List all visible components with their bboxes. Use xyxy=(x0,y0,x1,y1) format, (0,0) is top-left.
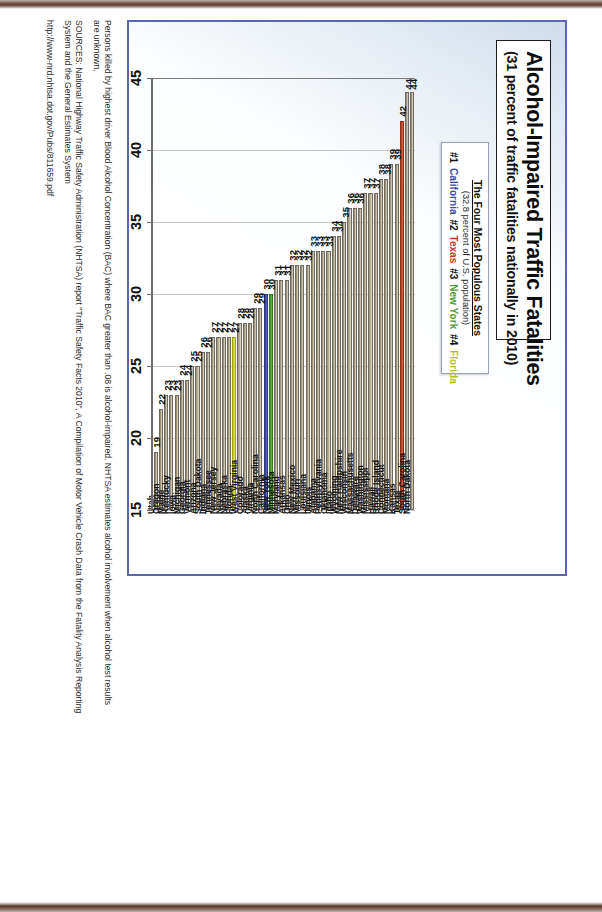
bar-value-label: 34 xyxy=(331,221,341,232)
legend-rank-4: #4 xyxy=(448,334,459,345)
tick-label-25: 25 xyxy=(129,354,144,378)
bar-value-label: 25 xyxy=(189,351,199,362)
bar-row: 39 xyxy=(389,78,393,510)
note-1-line-1: Persons killed by highest driver Blood A… xyxy=(102,20,113,576)
tick-mark-25 xyxy=(147,366,153,367)
legend-state-texas: Texas xyxy=(448,235,459,263)
bar-value-label: 33 xyxy=(310,236,320,247)
bar-row: 34 xyxy=(337,78,341,510)
bar-row: 37 xyxy=(374,78,378,510)
bar-row: 28 xyxy=(248,78,252,510)
bar-row: 38 xyxy=(379,78,383,510)
chart-title-box: Alcohol-Impaired Traffic Fatalities (31 … xyxy=(496,40,551,340)
bar-row: 28 xyxy=(243,78,247,510)
legend-state-florida: Florida xyxy=(448,350,459,384)
bar-row: 36 xyxy=(358,78,362,510)
bar-value-label: 24 xyxy=(179,365,189,376)
bar-row: 37 xyxy=(363,78,367,510)
bar-row: 31 xyxy=(285,78,289,510)
tick-mark-40 xyxy=(147,150,153,151)
bar-value-label: 32 xyxy=(289,250,299,261)
tick-label-15: 15 xyxy=(129,498,144,522)
bar-value-label: 19 xyxy=(152,437,162,448)
bar-row: 23 xyxy=(164,78,168,510)
bar-value-label: 37 xyxy=(362,178,372,189)
bar-value-label: 42 xyxy=(399,106,409,117)
bar-row: 28 xyxy=(237,78,241,510)
bar-value-label: 39 xyxy=(388,149,398,160)
bar-row: 33 xyxy=(327,78,331,510)
bar-row: 31 xyxy=(279,78,283,510)
bar-row: 36 xyxy=(347,78,351,510)
category-axis-labels: North DakotaSouth CarolinaTexasKansasMon… xyxy=(153,514,415,576)
bar-row: 39 xyxy=(395,78,399,510)
bar-connecticut xyxy=(384,179,388,510)
legend-rank-1: #1 xyxy=(448,152,459,163)
legend-rank-3: #3 xyxy=(448,268,459,279)
bar-value-label: 23 xyxy=(163,380,173,391)
bar-row: 33 xyxy=(321,78,325,510)
bar-chart-plot-area: 4444423939383837373736363635343433333333… xyxy=(153,78,415,510)
scan-artifact-bottom-edge xyxy=(0,902,602,912)
bar-row: 27 xyxy=(227,78,231,510)
bar-row: 24 xyxy=(180,78,184,510)
bar-row: 23 xyxy=(175,78,179,510)
bar-row: 37 xyxy=(368,78,372,510)
bar-row: 34 xyxy=(332,78,336,510)
bar-value-label: 26 xyxy=(200,337,210,348)
bar-texas xyxy=(400,121,404,510)
note-1-line-2: are unknown. xyxy=(91,20,102,576)
bar-row: 31 xyxy=(274,78,278,510)
bar-value-label: 22 xyxy=(158,394,168,405)
legend-state-list: #1 California #2 Texas #3 New York #4 Fl… xyxy=(448,151,459,365)
tick-mark-30 xyxy=(147,294,153,295)
bar-row: 32 xyxy=(306,78,310,510)
tick-label-45: 45 xyxy=(129,66,144,90)
tick-label-35: 35 xyxy=(129,210,144,234)
bar-row: 32 xyxy=(290,78,294,510)
bar-value-label: 31 xyxy=(273,265,283,276)
bar-row: 25 xyxy=(196,78,200,510)
bar-row: 27 xyxy=(232,78,236,510)
bar-value-label: 29 xyxy=(252,293,262,304)
bar-row: 24 xyxy=(185,78,189,510)
source-url: http://www-nrd.nhtsa.dot.gov/Pubs/811659… xyxy=(45,20,55,576)
bar-montana xyxy=(389,164,393,510)
bar-row: 27 xyxy=(216,78,220,510)
bar-row: 25 xyxy=(190,78,194,510)
tick-mark-45 xyxy=(147,78,153,79)
bar-row: 42 xyxy=(400,78,404,510)
bar-row: 38 xyxy=(384,78,388,510)
bar-north-dakota xyxy=(410,92,414,510)
tick-label-20: 20 xyxy=(129,426,144,450)
scanned-slide-page: Alcohol-Impaired Traffic Fatalities (31 … xyxy=(21,16,581,896)
tick-label-40: 40 xyxy=(129,138,144,162)
bar-row: 26 xyxy=(206,78,210,510)
legend-heading: The Four Most Populous States xyxy=(472,151,483,365)
page-title: Alcohol-Impaired Traffic Fatalities xyxy=(522,51,544,329)
legend-callout-box: The Four Most Populous States (32.8 perc… xyxy=(441,142,489,374)
tick-mark-35 xyxy=(147,222,153,223)
bar-washington xyxy=(363,193,367,510)
bar-row: 35 xyxy=(342,78,346,510)
page-subtitle: (31 percent of traffic fatalities nation… xyxy=(504,51,520,329)
bar-value-label: 27 xyxy=(210,322,220,333)
scan-artifact-top-edge xyxy=(0,0,602,9)
bar-value-label: 38 xyxy=(378,164,388,175)
bar-row: 44 xyxy=(405,78,409,510)
note-2-line-2: System and the General Estimates System xyxy=(62,20,73,576)
bar-south-carolina xyxy=(405,92,409,510)
bar-value-label: 35 xyxy=(341,207,351,218)
bar-row: 30 xyxy=(269,78,273,510)
bar-row: 44 xyxy=(410,78,414,510)
bar-row: 27 xyxy=(222,78,226,510)
bar-value-label: 30 xyxy=(263,279,273,290)
tick-mark-20 xyxy=(147,438,153,439)
bar-row: 33 xyxy=(316,78,320,510)
bar-row: 33 xyxy=(311,78,315,510)
legend-rank-2: #2 xyxy=(448,219,459,230)
bar-row: 19 xyxy=(154,78,158,510)
bar-row: 29 xyxy=(253,78,257,510)
legend-state-new-york: New York xyxy=(448,284,459,329)
bar-row: 23 xyxy=(169,78,173,510)
